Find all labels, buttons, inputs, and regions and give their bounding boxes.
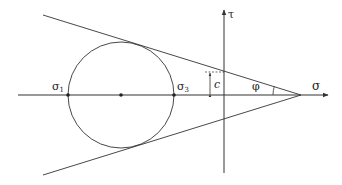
friction-angle-label: φ — [252, 80, 260, 93]
upper-envelope-line — [43, 15, 301, 95]
center-point — [119, 93, 123, 97]
friction-angle-arc — [273, 87, 274, 95]
lower-envelope-line — [43, 95, 301, 175]
mohr-coulomb-diagram: σ1 σ3 c φ σ τ — [0, 0, 342, 185]
sigma3-label: σ3 — [177, 80, 189, 94]
cohesion-label: c — [214, 78, 220, 91]
sigma3-point — [172, 93, 176, 97]
sigma1-label: σ1 — [52, 80, 64, 94]
tau-axis-label: τ — [228, 8, 234, 21]
sigma1-point — [66, 93, 70, 97]
sigma-axis-label: σ — [312, 79, 320, 93]
